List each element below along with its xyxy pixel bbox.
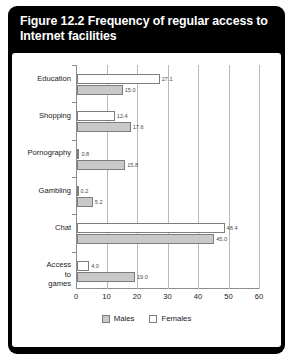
bar-value-label: 12.4 <box>117 111 128 121</box>
category-label: Education <box>37 74 71 83</box>
legend-label: Males <box>114 314 135 323</box>
category-group: Chat48.445.0 <box>77 214 259 251</box>
y-tick-mark-3 <box>72 177 76 178</box>
females-swatch <box>149 315 157 323</box>
category-label: Gambling <box>39 186 72 195</box>
bar-females <box>77 111 115 121</box>
plot-area: Education27.115.0Shopping12.417.6Pornogr… <box>76 65 259 289</box>
category-group: Accesstogames4.019.0 <box>77 252 259 289</box>
y-tick-mark-5 <box>72 252 76 253</box>
bar-males <box>77 234 214 244</box>
chart-legend: MalesFemales <box>12 314 281 323</box>
category-label: Shopping <box>39 111 71 120</box>
bar-value-label: 0.2 <box>81 186 89 196</box>
males-swatch <box>102 315 110 323</box>
category-label: Chat <box>55 223 71 232</box>
category-label: Accesstogames <box>47 260 71 288</box>
gridline-60 <box>259 65 260 289</box>
x-tick-label-0: 0 <box>74 292 78 301</box>
x-tick-label-20: 20 <box>133 292 141 301</box>
category-group: Gambling0.25.2 <box>77 177 259 214</box>
bar-value-label: 17.6 <box>133 122 144 132</box>
legend-item-females: Females <box>149 314 191 323</box>
bar-females <box>77 261 89 271</box>
y-tick-mark-0 <box>72 65 76 66</box>
bar-value-label: 48.4 <box>227 223 238 233</box>
x-tick-label-60: 60 <box>255 292 263 301</box>
bar-value-label: 0.8 <box>81 149 89 159</box>
x-tick-label-10: 10 <box>102 292 110 301</box>
x-tick-label-40: 40 <box>194 292 202 301</box>
y-tick-mark-2 <box>72 140 76 141</box>
bar-females <box>77 74 160 84</box>
y-tick-mark-4 <box>72 214 76 215</box>
legend-item-males: Males <box>102 314 135 323</box>
figure-panel: Figure 12.2 Frequency of regular access … <box>8 6 285 354</box>
bar-males <box>77 122 131 132</box>
y-tick-mark-1 <box>72 102 76 103</box>
bar-males <box>77 272 135 282</box>
x-axis-tick-labels: 0102030405060 <box>76 289 259 305</box>
bar-females <box>77 186 79 196</box>
bar-males <box>77 197 93 207</box>
category-group: Pornography0.815.8 <box>77 140 259 177</box>
x-tick-label-50: 50 <box>224 292 232 301</box>
bar-females <box>77 149 79 159</box>
legend-label: Females <box>161 314 191 323</box>
bar-value-label: 27.1 <box>162 74 173 84</box>
x-tick-label-30: 30 <box>163 292 171 301</box>
bar-value-label: 19.0 <box>137 272 148 282</box>
figure-title: Figure 12.2 Frequency of regular access … <box>8 6 285 51</box>
bar-males <box>77 160 125 170</box>
bar-value-label: 4.0 <box>91 261 99 271</box>
chart-surface: Education27.115.0Shopping12.417.6Pornogr… <box>12 53 281 347</box>
bar-males <box>77 85 123 95</box>
bar-value-label: 45.0 <box>216 234 227 244</box>
category-label: Pornography <box>28 148 71 157</box>
bar-value-label: 15.0 <box>125 85 136 95</box>
category-group: Education27.115.0 <box>77 65 259 102</box>
bar-females <box>77 223 225 233</box>
bar-value-label: 5.2 <box>95 197 103 207</box>
bar-value-label: 15.8 <box>127 160 138 170</box>
category-group: Shopping12.417.6 <box>77 102 259 139</box>
